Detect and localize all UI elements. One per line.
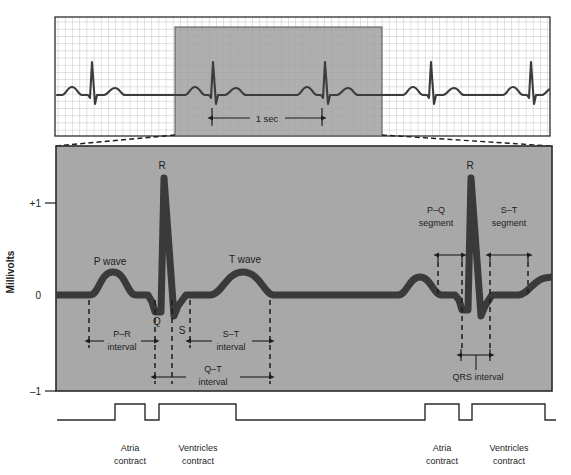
st-label-line2: interval [216,342,245,352]
st-label-line1: S–T [223,329,240,339]
contraction-pulse-panel: Atria contract Ventricles contract Atria… [57,404,556,466]
one-second-label: 1 sec [256,113,279,124]
qrs-label: QRS interval [452,372,503,382]
qt-label-line2: interval [198,377,227,387]
st-seg-label-line1: S–T [501,205,518,215]
ventricles-contract-1-line1: Ventricles [178,443,218,453]
ventricles-contract-2-line2: contract [493,456,526,466]
label-r-peak-left: R [158,160,165,171]
ventricles-contract-1-line2: contract [182,456,215,466]
y-tick-label-plus1: +1 [30,198,42,209]
label-s-point: S [179,325,186,336]
atria-contract-2-line1: Atria [433,443,452,453]
ecg-detail-panel: +1 0 –1 Millivolts P wave R Q S T wave R… [5,146,552,397]
atria-contract-2-line2: contract [426,456,459,466]
pq-label-line1: P–Q [427,205,445,215]
atria-contract-1-line2: contract [114,456,147,466]
pr-label-line1: P–R [113,329,131,339]
pq-label-line2: segment [419,218,454,228]
contraction-pulse-trace [57,404,556,420]
ventricles-contract-2-line1: Ventricles [489,443,529,453]
y-axis: +1 0 –1 Millivolts [5,198,56,397]
highlight-window [175,27,382,136]
y-tick-label-zero: 0 [35,290,41,301]
qt-label-line1: Q–T [204,364,222,374]
ecg-rhythm-strip: 1 sec [55,17,550,136]
y-axis-title: Millivolts [5,250,16,293]
y-tick-label-minus1: –1 [30,386,42,397]
label-t-wave: T wave [229,254,261,265]
ecg-figure: 1 sec +1 0 –1 Millivolts P wave R Q S T … [0,0,571,475]
label-p-wave: P wave [94,256,127,267]
atria-contract-1-line1: Atria [121,443,140,453]
pr-label-line2: interval [107,342,136,352]
label-r-peak-right: R [466,160,473,171]
st-seg-label-line2: segment [492,218,527,228]
